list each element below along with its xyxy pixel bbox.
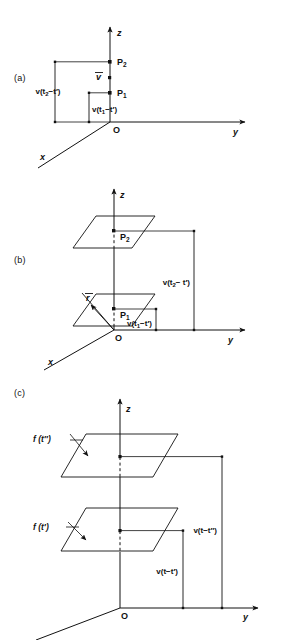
panel-c-inner-measure-label: v(t−t′) [156,567,178,576]
panel-a-velocity-marker [108,76,111,79]
panel-a-y-axis-label: y [232,127,239,137]
panel-b-z-axis-label: z [119,190,125,200]
panel-a-z-axis-label: z [116,28,122,38]
panel-b-x-axis-label: x [47,357,54,367]
panel-c-z-axis-label: z [125,404,131,414]
panel-c-outer-measure-label: v(t−t″) [193,526,217,535]
panel-a-inner-measure-label: v(t1−t′) [92,105,117,115]
panel-c-label: (c) [14,388,25,398]
panel-b-r-vector-label: r [86,293,90,303]
panel-a-origin-label: O [113,125,120,135]
panel-c-lower-plane-label: f (t′) [33,522,49,532]
panel-a-outer-measure-label: v(t2−t′) [35,87,60,97]
panel-b-point-p1-marker [112,307,115,310]
panel-a-label: (a) [14,73,26,83]
figure-root: (a) z y x O P2 P1 v v(t2−t′) v(t1−t′) [0,0,282,640]
panel-a-x-axis-label: x [39,152,46,162]
panel-b-y-axis-label: y [227,335,234,345]
panel-b-label: (b) [14,255,26,265]
panel-b-outer-measure-label: v(t2− t′) [163,278,191,288]
panel-b-point-p2-marker [112,229,115,232]
panel-b-origin-label: O [115,333,122,343]
panel-c-y-axis-label: y [242,612,249,622]
figure-svg: (a) z y x O P2 P1 v v(t2−t′) v(t1−t′) [0,0,282,640]
panel-c-upper-plane-label: f (t″) [33,434,51,444]
panel-b-inner-measure-label: v(t1−t′) [127,319,152,329]
panel-c-origin-label: O [121,611,128,621]
